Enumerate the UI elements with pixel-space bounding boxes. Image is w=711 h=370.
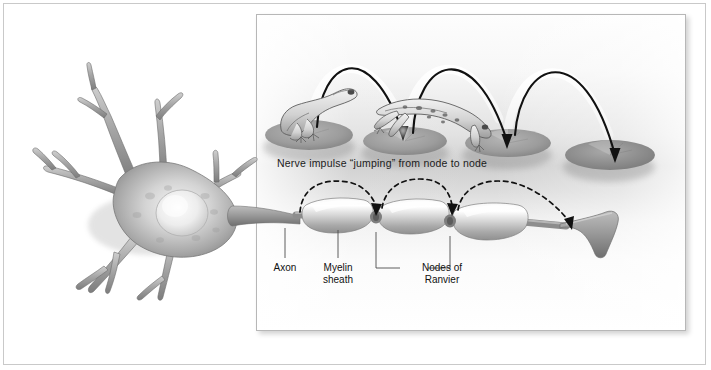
label-nodes-of-ranvier: Nodes of Ranvier [404,262,480,285]
jump-motion-trails [309,69,609,139]
neuron-saltatory-conduction-figure: Nerve impulse “jumping” from node to nod… [0,0,711,370]
label-myelin-sheath: Myelin sheath [313,262,363,285]
figure-caption: Nerve impulse “jumping” from node to nod… [277,157,517,169]
label-axon: Axon [264,262,306,274]
lilypad-4 [565,140,655,170]
